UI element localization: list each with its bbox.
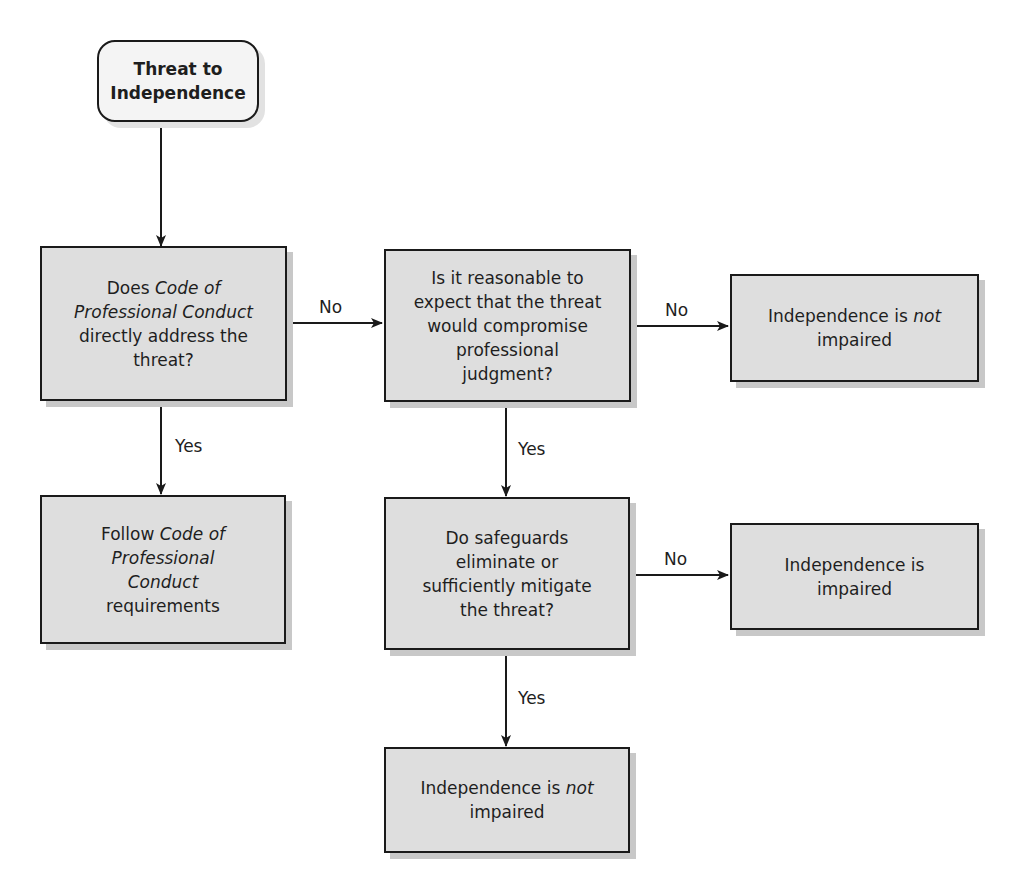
q2-line-4: professional [456, 340, 559, 360]
q2-yes-label: Yes [518, 439, 545, 459]
q3-line-1: Do safeguards [446, 528, 569, 548]
q1-line-1b: Code of [155, 278, 220, 298]
ni2-line-2: impaired [469, 802, 544, 822]
q3-no-label: No [664, 549, 687, 569]
follow-line-3: Conduct [128, 572, 199, 592]
q3-line-4: the threat? [460, 600, 554, 620]
decision-reasonable-to-expect: Is it reasonable to expect that the thre… [384, 249, 631, 402]
q1-no-label: No [319, 297, 342, 317]
q2-line-2: expect that the threat [414, 292, 602, 312]
outcome-not-impaired-2: Independence is not impaired [384, 747, 630, 853]
start-line-1: Threat to [134, 59, 223, 79]
follow-line-1a: Follow [101, 524, 160, 544]
decision-code-addresses-threat: Does Code of Professional Conduct direct… [40, 246, 287, 401]
q2-line-5: judgment? [462, 364, 553, 384]
ni2-line-1b: not [566, 778, 594, 798]
start-node-threat-to-independence: Threat to Independence [97, 40, 259, 122]
imp-line-1: Independence is [785, 555, 925, 575]
ni1-line-2: impaired [817, 330, 892, 350]
q1-line-1a: Does [107, 278, 155, 298]
follow-line-1b: Code of [160, 524, 225, 544]
follow-line-4: requirements [106, 596, 220, 616]
q1-line-2: Professional Conduct [74, 302, 253, 322]
q1-yes-label: Yes [175, 436, 202, 456]
ni1-line-1a: Independence is [768, 306, 913, 326]
q3-line-3: sufficiently mitigate [422, 576, 591, 596]
outcome-impaired: Independence is impaired [730, 523, 979, 630]
q3-yes-label: Yes [518, 688, 545, 708]
start-line-2: Independence [110, 83, 245, 103]
q3-line-2: eliminate or [456, 552, 558, 572]
q2-no-label: No [665, 300, 688, 320]
q2-line-1: Is it reasonable to [431, 268, 583, 288]
action-follow-code: Follow Code of Professional Conduct requ… [40, 495, 286, 644]
follow-line-2: Professional [112, 548, 215, 568]
q2-line-3: would compromise [427, 316, 588, 336]
q1-line-4: threat? [133, 350, 194, 370]
ni1-line-1b: not [913, 306, 941, 326]
q1-line-3: directly address the [79, 326, 248, 346]
imp-line-2: impaired [817, 579, 892, 599]
outcome-not-impaired-1: Independence is not impaired [730, 274, 979, 382]
decision-safeguards: Do safeguards eliminate or sufficiently … [384, 497, 630, 650]
ni2-line-1a: Independence is [420, 778, 565, 798]
